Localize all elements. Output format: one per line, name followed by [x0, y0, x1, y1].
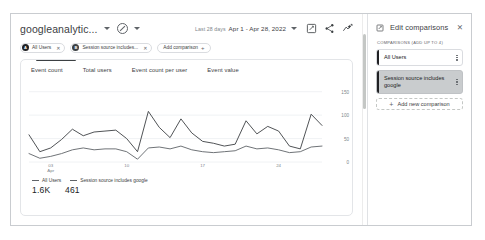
edit-comparisons-panel: Edit comparisons ✕ COMPARISONS (ADD UP T… [367, 14, 471, 225]
legend-label: All Users [42, 178, 61, 183]
comparison-chips: A All Users ✕ B Session source includes.… [20, 42, 353, 53]
insights-icon[interactable] [342, 23, 353, 34]
date-range-value: Apr 1 - Apr 28, 2022 [229, 25, 286, 32]
legend-value-session-source: 461 [65, 185, 80, 195]
more-options-icon[interactable] [456, 79, 458, 85]
line-chart: 150100500 [29, 80, 322, 162]
comparison-label: Session source includes google [384, 75, 450, 89]
no-entry-circle-icon[interactable] [117, 23, 128, 34]
panel-title: Edit comparisons [390, 23, 448, 32]
page-title[interactable]: googleanalytic... [20, 23, 98, 35]
metric-card: Event count Total users Event count per … [20, 59, 353, 216]
comparison-item-all-users[interactable]: All Users [376, 49, 463, 66]
legend-value-all-users: 1.6K [32, 185, 65, 195]
chip-label: Session source includes... [82, 45, 138, 50]
chart-canvas [29, 80, 322, 162]
comparison-chip-all-users[interactable]: A All Users ✕ [20, 43, 65, 53]
chip-close-icon[interactable]: ✕ [56, 45, 60, 51]
add-comparison-label: Add comparison [163, 45, 198, 50]
tab-event-count[interactable]: Event count [31, 67, 63, 73]
comparisons-section-label: COMPARISONS (ADD UP TO 4) [377, 40, 463, 45]
add-comparison-button[interactable]: Add comparison + [157, 43, 210, 53]
chip-badge-a: A [22, 44, 29, 51]
chevron-down-icon-2[interactable] [134, 27, 140, 30]
legend-values: 1.6K 461 [32, 185, 352, 195]
header-icon-group [306, 23, 353, 34]
plus-icon: + [201, 45, 205, 51]
y-tick-100: 100 [341, 113, 349, 118]
date-period-label: Last 28 days [195, 26, 226, 32]
close-icon[interactable]: ✕ [457, 24, 463, 32]
chevron-down-icon[interactable] [104, 27, 110, 30]
chip-badge-b: B [72, 44, 79, 51]
report-header: googleanalytic... Last 28 days Apr 1 - A… [11, 14, 362, 53]
y-tick-0: 0 [346, 160, 349, 165]
legend-label: Session source includes google [80, 178, 147, 183]
plus-icon: + [389, 101, 393, 108]
comparison-item-session-source[interactable]: Session source includes google [376, 70, 463, 94]
y-tick-150: 150 [341, 89, 349, 94]
scrollbar-thumb[interactable] [363, 34, 366, 109]
panel-header: Edit comparisons ✕ [376, 21, 463, 34]
legend-swatch-icon [70, 180, 77, 181]
legend-swatch-icon [32, 180, 39, 181]
tab-total-users[interactable]: Total users [83, 67, 112, 73]
add-new-comparison-label: Add new comparison [397, 101, 449, 107]
comparison-chip-session-source[interactable]: B Session source includes... ✕ [70, 43, 152, 53]
y-tick-50: 50 [344, 136, 349, 141]
x-tick-24: 24 [276, 163, 281, 168]
legend-row: All Users Session source includes google [32, 178, 352, 183]
comparison-label: All Users [384, 54, 406, 61]
chart-legend: All Users Session source includes google… [32, 178, 352, 195]
date-chevron-down-icon [291, 27, 297, 30]
x-axis-labels: 03Apr101724 [29, 162, 322, 176]
edit-comparisons-icon[interactable] [306, 23, 317, 34]
title-row: googleanalytic... Last 28 days Apr 1 - A… [20, 20, 353, 37]
legend-item-session-source[interactable]: Session source includes google [70, 178, 147, 183]
report-pane: googleanalytic... Last 28 days Apr 1 - A… [11, 14, 362, 225]
report-window: googleanalytic... Last 28 days Apr 1 - A… [10, 13, 472, 226]
metric-tabs: Event count Total users Event count per … [21, 60, 352, 73]
date-range-selector[interactable]: Last 28 days Apr 1 - Apr 28, 2022 [195, 25, 297, 32]
chip-label: All Users [32, 45, 51, 50]
legend-item-all-users[interactable]: All Users [32, 178, 61, 183]
edit-comparisons-icon [376, 24, 384, 32]
x-tick-10: 10 [124, 163, 129, 168]
add-new-comparison-button[interactable]: + Add new comparison [376, 98, 463, 110]
chip-close-icon[interactable]: ✕ [143, 45, 147, 51]
share-icon[interactable] [324, 23, 335, 34]
more-options-icon[interactable] [456, 54, 458, 60]
x-tick-17: 17 [200, 163, 205, 168]
tab-event-value[interactable]: Event value [207, 67, 238, 73]
tab-event-count-per-user[interactable]: Event count per user [132, 67, 188, 73]
x-tick-03: 03Apr [47, 163, 54, 173]
